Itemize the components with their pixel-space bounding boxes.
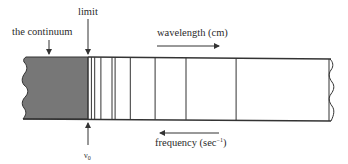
nu0-label: ν0 [84, 151, 91, 161]
band-bottom-edge [23, 119, 331, 121]
wavelength-label: wavelength (cm) [157, 27, 228, 39]
spectrum-band [22, 57, 334, 121]
band-right-wavy-edge [329, 59, 334, 121]
spectrum-diagram: the continuum limit wavelength (cm) freq… [0, 0, 348, 164]
continuum-region [22, 57, 88, 119]
spectral-lines [88, 57, 329, 121]
limit-label: limit [78, 6, 98, 17]
frequency-label: frequency (sec−1) [155, 137, 227, 149]
band-top-edge [88, 57, 331, 59]
continuum-label: the continuum [12, 26, 72, 37]
